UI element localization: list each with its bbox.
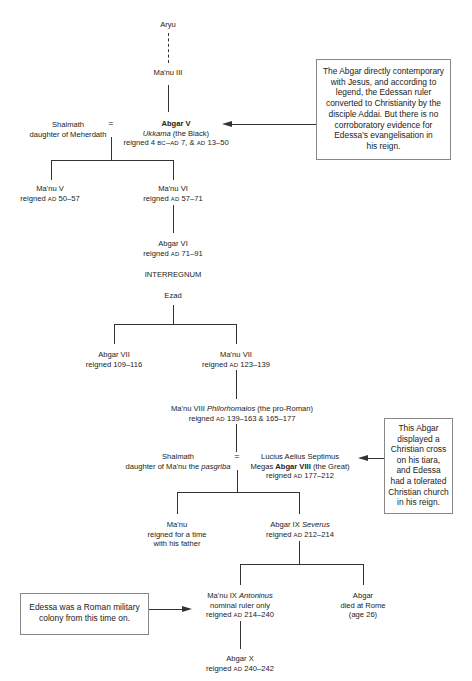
note-abgar8-line: displayed a (387, 434, 450, 445)
line-branch-1 (51, 160, 174, 161)
line-manu7-manu8 (236, 370, 237, 399)
line-to-abgar-rome (363, 564, 364, 585)
interregnum-text: INTERREGNUM (145, 270, 202, 280)
line-branch-2 (114, 324, 237, 325)
line-manu6-abgar6 (173, 205, 174, 233)
node-abgar9: Abgar IX Severus reigned AD 212–214 (266, 520, 334, 540)
manu5-reign-pre: reigned (20, 194, 47, 203)
line-branch-3 (177, 492, 300, 493)
abgar7-name: Abgar VII (86, 350, 142, 360)
node-manu9: Ma'nu IX Antoninus nominal ruler only re… (206, 591, 274, 621)
note-roman-colony-line: colony from this time on. (25, 613, 144, 624)
abgar5-ad1: AD (170, 140, 179, 146)
manu-son-line3: with his father (147, 539, 206, 549)
manu9-epithet: Antoninus (239, 591, 273, 600)
note-abgar8-line: had a tolerated (387, 476, 450, 487)
arrow-note-roman-colony (149, 609, 183, 610)
line-ezad-down (173, 305, 174, 324)
manu9-reign-pre: reigned (206, 610, 233, 619)
aryu-name: Aryu (160, 20, 176, 30)
node-shalmath-1: Shalmath daughter of Meherdath (30, 120, 107, 139)
line-manu8-abgar8 (236, 424, 237, 452)
abgar6-reign: 71–91 (179, 249, 202, 258)
abgar9-name: Abgar IX (270, 520, 302, 529)
abgar5-bc: BC (157, 140, 166, 146)
node-abgar10: Abgar X reigned AD 240–242 (206, 654, 274, 674)
abgar8-ad: AD (294, 473, 303, 479)
abgar8-reign: 177–212 (302, 471, 334, 480)
note-abgar5-line: legend, the Edessan ruler (321, 87, 446, 98)
abgar9-reign-pre: reigned (266, 530, 293, 539)
manu8-reign: 139–163 & 165–177 (225, 414, 296, 423)
shalmath2-desc-italic: pasgriba (201, 462, 230, 471)
manu9-name: Ma'nu IX (207, 591, 239, 600)
note-abgar8-line: and Edessa (387, 465, 450, 476)
abgar-rome-line2: died at Rome (340, 601, 385, 611)
node-manu6: Ma'nu VI reigned AD 57–71 (143, 184, 202, 204)
note-abgar8-line: This Abgar (387, 423, 450, 434)
manu8-name: Ma'nu VIII (171, 404, 207, 413)
manu5-name: Ma'nu V (20, 184, 79, 194)
manu6-ad: AD (171, 196, 180, 202)
abgar10-ad: AD (234, 666, 243, 672)
manu7-name: Ma'nu VII (202, 350, 270, 360)
manu9-line2: nominal ruler only (206, 601, 274, 611)
line-to-manu5 (51, 160, 52, 180)
manu8-epithet-note: (the pro-Roman) (255, 404, 313, 413)
abgar-rome-name: Abgar (340, 591, 385, 601)
abgar8-post: (the Great) (311, 462, 350, 471)
note-abgar5-line: corroboratory evidence for (321, 120, 446, 131)
line-to-manu-son (177, 492, 178, 514)
abgar6-ad: AD (171, 251, 180, 257)
note-abgar8-line: Christian cross (387, 444, 450, 455)
node-manu5: Ma'nu V reigned AD 50–57 (20, 184, 79, 204)
note-abgar5-line: Edessa's evangelisation in (321, 130, 446, 141)
node-shalmath-2: Shalmath daughter of Ma'nu the pasgriba (126, 452, 231, 471)
manu-son-line2: reigned for a time (147, 530, 206, 540)
abgar9-reign: 212–214 (302, 530, 334, 539)
abgar5-name: Abgar V (123, 119, 228, 129)
abgar5-reign-pre: reigned 4 (123, 138, 157, 147)
manu6-reign-pre: reigned (143, 194, 170, 203)
abgar10-name: Abgar X (206, 654, 274, 664)
note-roman-colony: Edessa was a Roman military colony from … (20, 593, 149, 635)
node-abgar-rome: Abgar died at Rome (age 26) (340, 591, 385, 620)
arrow-head-icon (358, 455, 368, 461)
note-abgar5-line: The Abgar directly contemporary (321, 66, 446, 77)
note-abgar5-line: disciple Addai. But there is no (321, 109, 446, 120)
node-ezad: Ezad (164, 291, 181, 301)
note-abgar8-line: Christian church (387, 487, 450, 498)
abgar8-name: Abgar VIII (275, 462, 310, 471)
abgar5-reign-mid: 7, & (179, 138, 197, 147)
abgar6-name: Abgar VI (143, 239, 202, 249)
manu3-name: Ma'nu III (154, 68, 183, 78)
node-abgar8: Lucius Aelius Septimus Megas Abgar VIII … (250, 452, 349, 482)
shalmath1-name: Shalmath (30, 120, 107, 130)
node-manu3: Ma'nu III (154, 68, 183, 78)
line-abgar9-down (299, 541, 300, 564)
line-to-manu7 (236, 324, 237, 344)
dashed-line-aryu-manu3 (168, 33, 169, 63)
node-manu7: Ma'nu VII reigned AD 123–139 (202, 350, 270, 370)
note-abgar5: The Abgar directly contemporary with Jes… (316, 59, 451, 160)
abgar-rome-line3: (age 26) (340, 610, 385, 620)
node-manu8: Ma'nu VIII Philorhomaios (the pro-Roman)… (171, 404, 313, 424)
note-abgar5-line: converted to Christianity by the (321, 98, 446, 109)
arrow-note-abgar5 (231, 124, 317, 125)
note-abgar5-line: his reign. (321, 141, 446, 152)
arrow-note-abgar8 (367, 458, 385, 459)
manu5-ad: AD (48, 196, 57, 202)
interregnum-label: INTERREGNUM (145, 270, 202, 280)
arrow-head-icon (182, 606, 192, 612)
abgar8-reign-pre: reigned (266, 471, 293, 480)
arrow-head-icon (222, 121, 232, 127)
manu5-reign: 50–57 (56, 194, 79, 203)
line-manu3-abgar5 (168, 85, 169, 112)
abgar7-reign: reigned 109–116 (86, 360, 142, 370)
abgar5-reign-end: 13–50 (205, 138, 228, 147)
manu7-reign: 123–139 (238, 360, 270, 369)
ezad-name: Ezad (164, 291, 181, 301)
abgar9-epithet: Severus (302, 520, 330, 529)
marriage-sign-1: = (108, 119, 113, 129)
node-abgar6: Abgar VI reigned AD 71–91 (143, 239, 202, 259)
